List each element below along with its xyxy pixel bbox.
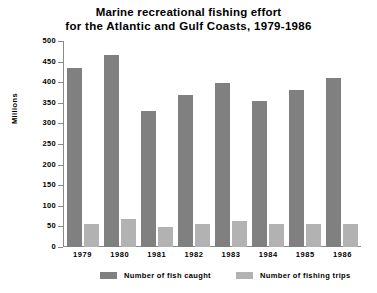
x-axis-label-1981: 1981 [138, 250, 175, 259]
y-axis-tick-label: 300 [43, 119, 56, 127]
y-axis-tick-label: 100 [43, 202, 56, 210]
y-axis-tick-mark [58, 165, 63, 166]
legend-label-fishing-trips: Number of fishing trips [260, 271, 351, 280]
y-axis-tick-label: 450 [43, 58, 56, 66]
legend-swatch-fish-caught [100, 272, 117, 279]
y-axis-tick-mark [58, 82, 63, 83]
y-axis-tick-mark [58, 144, 63, 145]
y-axis-tick-label: 350 [43, 99, 56, 107]
y-axis-tick-mark [58, 123, 63, 124]
bar-fish-caught-1980 [104, 55, 119, 247]
bar-fish-caught-1983 [215, 83, 230, 247]
fishing-effort-bar-chart: Marine recreational fishing effort for t… [0, 0, 377, 293]
bar-fishing-trips-1980 [121, 219, 136, 247]
bar-fish-caught-1986 [326, 78, 341, 247]
bar-group [287, 41, 324, 247]
y-axis-tick-mark [58, 247, 63, 248]
x-axis-label-1983: 1983 [213, 250, 250, 259]
bar-fishing-trips-1985 [306, 224, 321, 247]
bar-group [138, 41, 175, 247]
y-axis-tick-label: 250 [43, 140, 56, 148]
x-axis-label-1984: 1984 [250, 250, 287, 259]
x-axis-labels: 19791980198119821983198419851986 [64, 250, 361, 262]
bar-fishing-trips-1984 [269, 224, 284, 247]
x-axis-label-1979: 1979 [64, 250, 101, 259]
legend-item-fish-caught: Number of fish caught [100, 271, 211, 280]
y-axis-tick-mark [58, 103, 63, 104]
x-axis-label-1985: 1985 [287, 250, 324, 259]
bar-group [101, 41, 138, 247]
bar-fishing-trips-1979 [84, 224, 99, 247]
bar-fish-caught-1979 [67, 68, 82, 247]
bar-fish-caught-1984 [252, 101, 267, 247]
x-axis-label-1986: 1986 [324, 250, 361, 259]
chart-legend: Number of fish caught Number of fishing … [0, 271, 377, 285]
bar-group [64, 41, 101, 247]
bar-group [250, 41, 287, 247]
legend-swatch-fishing-trips [236, 272, 253, 279]
legend-item-fishing-trips: Number of fishing trips [236, 271, 351, 280]
legend-label-fish-caught: Number of fish caught [124, 271, 211, 280]
bar-fishing-trips-1982 [195, 224, 210, 247]
y-axis-tick-mark [58, 62, 63, 63]
y-axis-tick-mark [58, 41, 63, 42]
chart-title-line-2: for the Atlantic and Gulf Coasts, 1979-1… [0, 19, 377, 33]
bar-fish-caught-1985 [289, 90, 304, 247]
bar-group [324, 41, 361, 247]
bar-fishing-trips-1986 [343, 224, 358, 247]
x-axis-label-1982: 1982 [175, 250, 212, 259]
chart-title: Marine recreational fishing effort for t… [0, 5, 377, 33]
y-axis-tick-label: 0 [52, 243, 56, 251]
y-axis-tick-label: 500 [43, 37, 56, 45]
y-axis-tick-label: 400 [43, 78, 56, 86]
y-axis-tick-label: 150 [43, 181, 56, 189]
y-axis-tick-label: 200 [43, 161, 56, 169]
bar-group [175, 41, 212, 247]
bars-layer [64, 41, 361, 247]
bar-fish-caught-1982 [178, 95, 193, 247]
y-axis-tick-mark [58, 206, 63, 207]
chart-title-line-1: Marine recreational fishing effort [0, 5, 377, 19]
y-axis-tick-mark [58, 185, 63, 186]
y-axis-tick-mark [58, 226, 63, 227]
y-axis-title: Millions [10, 93, 19, 124]
y-axis-tick-label: 50 [47, 222, 56, 230]
y-axis: 500450400350300250200150100500 [20, 41, 63, 247]
bar-fishing-trips-1981 [158, 227, 173, 247]
bar-group [213, 41, 250, 247]
bar-fishing-trips-1983 [232, 221, 247, 247]
bar-fish-caught-1981 [141, 111, 156, 247]
x-axis-label-1980: 1980 [101, 250, 138, 259]
